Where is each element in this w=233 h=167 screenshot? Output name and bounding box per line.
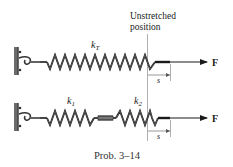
bottom-force-label: F [212,113,218,124]
spring-connector-rod [94,116,116,120]
bottom-displacement-label: s [157,132,160,141]
spring-kt-label: kT [91,39,100,52]
top-force-label: F [212,57,218,68]
unstretched-label-line1: Unstretched [130,11,176,21]
bottom-hook-icon [19,113,47,120]
figure-caption: Prob. 3–14 [94,150,141,161]
spring-diagram: kT s F Unstretched position [0,0,233,167]
top-wall-icon [14,47,21,75]
top-hook-icon [19,57,47,64]
bottom-wall-icon [14,103,21,131]
unstretched-label-line2: position [130,22,161,32]
bottom-spring-system [14,103,207,137]
spring-k1-label: k1 [67,95,75,108]
top-displacement-label: s [157,76,160,85]
top-spring-system [14,47,207,81]
spring-k2-label: k2 [134,95,142,108]
